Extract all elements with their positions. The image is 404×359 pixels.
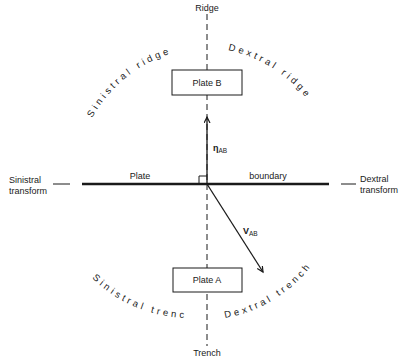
dextral-transform-label-line1: Dextral xyxy=(360,174,389,184)
sinistral-transform-label-line1: Sinistral xyxy=(9,175,41,185)
plate-a-label: Plate A xyxy=(193,275,222,285)
boundary-label-left: Plate xyxy=(130,171,151,181)
sinistral-ridge-label: Sinistral ridge xyxy=(84,44,173,119)
trench-label: Trench xyxy=(193,348,221,358)
plate-boundary-diagram: Ridge Trench Plate B Plate A Plate bound… xyxy=(0,0,404,359)
velocity-vector-arrow xyxy=(207,184,263,272)
normal-vector-label: ηAB xyxy=(213,143,227,154)
plate-b-label: Plate B xyxy=(192,78,221,88)
boundary-label-right: boundary xyxy=(249,171,287,181)
ridge-label: Ridge xyxy=(195,3,219,13)
dextral-transform-label-line2: transform xyxy=(360,185,398,195)
sinistral-transform-label-line2: transform xyxy=(9,186,47,196)
velocity-vector-label: VAB xyxy=(243,226,258,237)
right-angle-marker xyxy=(199,176,207,183)
